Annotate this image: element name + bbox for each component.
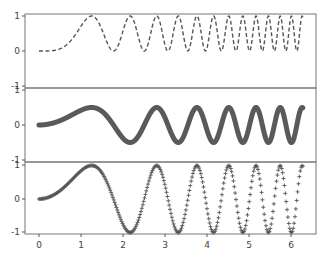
- x-tick-label: 5: [246, 240, 252, 250]
- middle-curve-thick: [39, 108, 303, 143]
- figure: 1 0 -1 1 0 -1 1 0 -1 0 1 2 3 4 5 6: [0, 0, 324, 260]
- y-tick-label: 1: [14, 160, 20, 170]
- top-curve-dashed: [39, 16, 303, 51]
- x-tick-label: 2: [120, 240, 126, 250]
- x-tick-label: 4: [204, 240, 210, 250]
- x-tick-label: 0: [36, 240, 42, 250]
- y-tick-label: 0: [14, 46, 20, 56]
- y-tick-label: -1: [11, 227, 20, 237]
- subplot-bottom: [25, 162, 316, 235]
- x-tick-label: 1: [78, 240, 84, 250]
- y-tick-label: 1: [14, 11, 20, 21]
- x-axis: 0 1 2 3 4 5 6: [36, 234, 294, 250]
- y-axis-bottom: 1 0 -1: [11, 160, 25, 237]
- y-tick-label: 0: [14, 120, 20, 130]
- subplot-top: [25, 14, 316, 88]
- x-tick-label: 3: [162, 240, 168, 250]
- y-tick-label: 0: [14, 194, 20, 204]
- subplot-middle: [25, 88, 316, 162]
- bottom-curve-plus-markers: [37, 164, 305, 235]
- y-axis-top: 1 0 -1: [11, 11, 25, 91]
- y-tick-label: 1: [14, 85, 20, 95]
- x-tick-label: 6: [288, 240, 294, 250]
- y-axis-middle: 1 0 -1: [11, 85, 25, 165]
